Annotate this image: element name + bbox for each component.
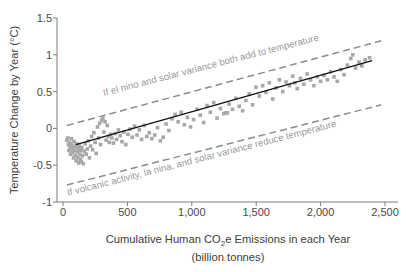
scatter-point (215, 116, 219, 120)
scatter-point (137, 128, 141, 132)
scatter-point (342, 73, 346, 77)
scatter-point (281, 90, 285, 94)
scatter-point (120, 140, 124, 144)
scatter-point (278, 78, 282, 82)
scatter-point (312, 84, 316, 88)
scatter-point (102, 130, 106, 134)
scatter-point (202, 121, 206, 125)
scatter-point (140, 138, 144, 142)
scatter-point (115, 138, 119, 142)
scatter-point (291, 74, 295, 78)
scatter-point (167, 129, 171, 133)
scatter-point (332, 75, 336, 79)
x-tick-label: 1,500 (242, 206, 270, 218)
y-axis-title: Temperature Change by Year (°C) (8, 25, 20, 194)
x-axis-title-part2: e Emissions in each Year (225, 233, 350, 245)
scatter-point (81, 154, 85, 158)
scatter-point (241, 109, 245, 113)
scatter-point (93, 141, 97, 145)
scatter-point (336, 79, 340, 83)
scatter-point (99, 143, 103, 147)
scatter-point (319, 79, 323, 83)
y-tick-label: 0.5 (37, 86, 52, 98)
scatter-point (189, 125, 193, 129)
scatter-point (124, 143, 128, 147)
scatter-point (219, 107, 223, 111)
scatter-point (106, 124, 110, 128)
scatter-point (117, 128, 121, 132)
scatter-point (237, 105, 241, 109)
scatter-point (257, 94, 261, 98)
scatter-point (209, 110, 213, 114)
scatter-point (212, 101, 216, 105)
scatter-point (104, 138, 108, 142)
scatter-point (251, 103, 255, 107)
scatter-point (153, 133, 157, 137)
scatter-point (261, 84, 265, 88)
scatter-chart: -1-0.500.511.5 05001,0001,5002,0002,500 … (0, 0, 410, 272)
scatter-point (179, 110, 183, 114)
chart-background (0, 0, 410, 272)
scatter-point (91, 148, 95, 152)
scatter-point (299, 77, 303, 81)
scatter-point (368, 56, 372, 60)
x-tick-label: 0 (60, 206, 66, 218)
scatter-point (82, 162, 86, 166)
scatter-point (363, 58, 367, 62)
scatter-point (145, 135, 149, 139)
scatter-point (227, 102, 231, 106)
scatter-point (164, 122, 168, 126)
scatter-point (90, 135, 94, 139)
y-tick-label: 1 (46, 49, 52, 61)
y-tick-label: -0.5 (33, 159, 52, 171)
scatter-point (110, 136, 114, 140)
scatter-point (346, 63, 350, 67)
chart-canvas: -1-0.500.511.5 05001,0001,5002,0002,500 … (0, 0, 410, 272)
scatter-point (150, 137, 154, 141)
scatter-point (295, 87, 299, 91)
x-tick-label: 2,000 (307, 206, 335, 218)
scatter-point (118, 134, 122, 138)
y-tick-label: 0 (46, 122, 52, 134)
scatter-point (176, 120, 180, 124)
scatter-point (302, 82, 306, 86)
scatter-point (66, 136, 70, 140)
scatter-point (186, 116, 190, 120)
scatter-point (156, 126, 160, 130)
scatter-point (135, 133, 139, 137)
scatter-point (305, 72, 309, 76)
x-tick-label: 2,500 (371, 206, 399, 218)
scatter-point (284, 80, 288, 84)
scatter-point (244, 99, 248, 103)
scatter-point (147, 131, 151, 135)
scatter-point (183, 123, 187, 127)
scatter-point (351, 53, 355, 57)
scatter-point (96, 125, 100, 129)
scatter-point (268, 81, 272, 85)
scatter-point (349, 57, 353, 61)
scatter-point (84, 152, 88, 156)
y-tick-label: -1 (42, 196, 52, 208)
scatter-point (325, 78, 329, 82)
scatter-point (354, 66, 358, 70)
scatter-point (254, 85, 258, 89)
scatter-point (192, 118, 196, 122)
scatter-point (199, 113, 203, 117)
scatter-point (271, 97, 275, 101)
scatter-point (226, 111, 230, 115)
scatter-point (101, 116, 105, 120)
x-tick-label: 500 (118, 206, 136, 218)
scatter-point (126, 132, 130, 136)
scatter-point (89, 144, 93, 148)
scatter-point (85, 147, 89, 151)
scatter-point (159, 139, 163, 143)
scatter-point (130, 135, 134, 139)
y-tick-label: 1.5 (37, 12, 52, 24)
scatter-point (108, 141, 112, 145)
x-axis-title-part1: Cumulative Human CO (106, 233, 221, 245)
scatter-point (231, 107, 235, 111)
scatter-point (80, 146, 84, 150)
x-tick-label: 1,000 (178, 206, 206, 218)
scatter-point (103, 120, 107, 124)
scatter-point (88, 156, 92, 160)
